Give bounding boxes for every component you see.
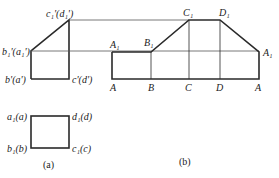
figure-a-lower-square	[31, 116, 69, 148]
label-b-top-1: B₁	[144, 37, 154, 48]
label-b-bottom-0: A	[109, 82, 117, 93]
upper-outline	[31, 20, 69, 79]
label-b-bottom-1: B	[148, 82, 154, 93]
label-d1d: d₁(d)	[72, 111, 93, 123]
label-b-bottom-4: A	[254, 82, 262, 93]
label-b-bottom-2: C	[185, 82, 192, 93]
diagram-canvas: c₁'(d₁') b₁'(a₁') b'(a') c'(d') a₁(a) d₁…	[0, 0, 279, 178]
label-b1a1: b₁'(a₁')	[2, 46, 31, 58]
caption-b: (b)	[179, 156, 191, 168]
label-b-bottom-3: D	[215, 82, 224, 93]
label-b-top-2: C₁	[183, 7, 193, 18]
caption-a: (a)	[43, 159, 54, 171]
figure-b-development	[112, 20, 259, 79]
label-c1c: c₁(c)	[72, 143, 92, 155]
figure-a-upper	[31, 20, 69, 79]
label-c1d1: c₁'(d₁')	[46, 8, 74, 20]
label-b1b: b₁(b)	[7, 143, 28, 155]
label-a1a: a₁(a)	[7, 111, 28, 123]
label-b-top-3: D₁	[218, 7, 230, 18]
development-outline	[112, 20, 259, 79]
label-b-top-0: A₁	[109, 39, 120, 50]
label-ba: b'(a')	[5, 74, 27, 86]
label-cd: c'(d')	[72, 74, 93, 86]
label-b-top-4: A₁	[262, 47, 273, 58]
